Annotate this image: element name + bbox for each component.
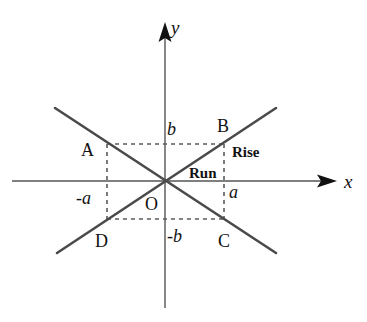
point-label-a-upper: A <box>81 140 94 160</box>
point-label-d-upper: D <box>95 231 108 251</box>
tick-label-b: b <box>167 119 176 139</box>
x-axis-label: x <box>343 171 353 192</box>
tick-label-neg-b: -b <box>167 226 182 246</box>
run-label: Run <box>189 165 217 181</box>
origin-label: O <box>145 194 158 214</box>
point-label-c-upper: C <box>218 231 230 251</box>
tick-label-neg-a: -a <box>76 188 91 208</box>
y-axis-label: y <box>169 17 180 38</box>
point-label-b-upper: B <box>217 116 229 136</box>
tick-label-a: a <box>229 182 238 202</box>
slope-diagram: y x O A B C D b -b a -a Rise Run <box>0 0 367 322</box>
rise-label: Rise <box>232 144 260 160</box>
